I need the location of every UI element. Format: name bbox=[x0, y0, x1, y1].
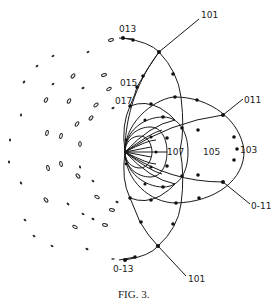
zone-015-101 bbox=[137, 19, 199, 87]
label-107: 107 bbox=[167, 147, 184, 157]
pole-labels: 013 101 015 017 011 107 105 103 0-11 0-1… bbox=[113, 10, 271, 284]
label-017: 017 bbox=[115, 96, 132, 106]
zone-arcs bbox=[119, 19, 250, 276]
label-101-bottom: 101 bbox=[188, 274, 205, 284]
label-103: 103 bbox=[240, 145, 257, 155]
label-0-11: 0-11 bbox=[251, 201, 271, 211]
label-015: 015 bbox=[120, 78, 137, 88]
label-0-13: 0-13 bbox=[113, 264, 133, 274]
label-013: 013 bbox=[119, 24, 136, 34]
label-105: 105 bbox=[203, 147, 220, 157]
spot-pattern bbox=[8, 38, 119, 260]
projection-diagram: 013 101 015 017 011 107 105 103 0-11 0-1… bbox=[0, 0, 277, 301]
label-011: 011 bbox=[244, 95, 261, 105]
zone-lower-101 bbox=[140, 222, 186, 276]
figure-caption: FIG. 3. bbox=[118, 288, 150, 300]
stereographic-figure: 013 101 015 017 011 107 105 103 0-11 0-1… bbox=[0, 0, 277, 301]
label-101-top: 101 bbox=[201, 10, 218, 20]
